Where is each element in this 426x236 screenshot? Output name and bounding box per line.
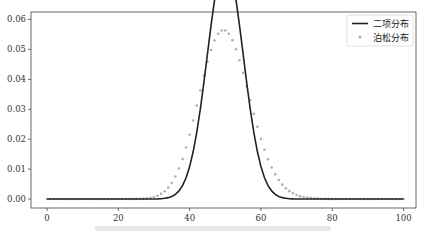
poisson-point: [235, 48, 238, 51]
poisson-point: [171, 181, 174, 184]
poisson-point: [163, 190, 166, 193]
poisson-point: [167, 186, 170, 189]
legend-label-poisson: 泊松分布: [373, 32, 409, 43]
poisson-point: [253, 113, 256, 116]
poisson-point: [178, 167, 181, 170]
poisson-point: [260, 138, 263, 141]
poisson-point: [285, 187, 288, 190]
y-tick-label: 0.05: [7, 44, 26, 54]
poisson-point: [238, 59, 241, 62]
poisson-point: [199, 89, 202, 92]
poisson-point: [174, 175, 177, 178]
poisson-point: [153, 196, 156, 199]
poisson-point: [213, 39, 216, 42]
poisson-point: [210, 49, 213, 52]
x-axis: 020406080100: [44, 208, 411, 223]
poisson-point: [181, 158, 184, 161]
poisson-point: [302, 196, 305, 199]
poisson-point: [160, 193, 163, 196]
poisson-point: [270, 166, 273, 169]
poisson-point: [277, 179, 280, 182]
x-tick-label: 0: [44, 213, 49, 223]
poisson-point: [217, 33, 220, 36]
poisson-point: [228, 32, 231, 35]
y-tick-label: 0.02: [7, 134, 26, 144]
poisson-point: [224, 29, 227, 32]
x-tick-label: 100: [395, 213, 411, 223]
x-tick-label: 80: [327, 213, 338, 223]
poisson-point: [288, 190, 291, 193]
x-tick-label: 20: [113, 213, 124, 223]
poisson-point: [256, 126, 259, 129]
y-axis: 0.000.010.020.030.040.050.06: [7, 14, 31, 204]
x-tick-label: 40: [184, 213, 195, 223]
poisson-point: [267, 158, 270, 161]
poisson-point: [156, 194, 159, 197]
figure-caption: [95, 226, 331, 231]
y-tick-label: 0.04: [7, 74, 26, 84]
poisson-point: [195, 104, 198, 107]
chart: 0.000.010.020.030.040.050.06 02040608010…: [0, 0, 426, 236]
poisson-point: [263, 148, 266, 151]
poisson-point: [188, 133, 191, 136]
poisson-point: [231, 39, 234, 42]
y-tick-label: 0.01: [7, 164, 26, 174]
legend-marker-icon: [358, 35, 361, 38]
poisson-point: [220, 29, 223, 32]
poisson-point: [292, 192, 295, 195]
legend-label-binomial: 二项分布: [373, 18, 409, 29]
poisson-point: [192, 119, 195, 122]
poisson-point: [242, 72, 245, 75]
y-tick-label: 0.03: [7, 104, 26, 114]
poisson-point: [295, 194, 298, 197]
poisson-point: [281, 183, 284, 186]
x-tick-label: 60: [256, 213, 267, 223]
poisson-point: [299, 195, 302, 198]
poisson-point: [274, 173, 277, 176]
y-tick-label: 0.06: [7, 14, 26, 24]
poisson-point: [185, 146, 188, 149]
y-tick-label: 0.00: [7, 194, 26, 204]
legend: 二项分布 泊松分布: [347, 15, 413, 46]
